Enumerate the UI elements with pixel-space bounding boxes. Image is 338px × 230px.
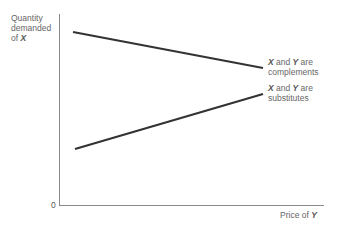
complements-label-line2: complements [268,67,319,77]
substitutes-label: X and Y are substitutes [268,83,313,103]
and-text: and [274,83,293,93]
y-axis-variable: X [20,33,26,43]
complements-label-line1: X and Y are [268,57,319,67]
origin-label: 0 [51,200,56,210]
and-text: and [274,57,293,67]
complements-label: X and Y are complements [268,57,319,77]
substitutes-label-line1: X and Y are [268,83,313,93]
are-text: are [298,83,313,93]
x-axis-label-prefix: Price of [280,210,311,220]
x-axis-variable: Y [311,210,317,220]
are-text: are [298,57,313,67]
complements-line [73,32,263,68]
substitutes-line [75,94,263,149]
x-axis-label: Price of Y [280,210,317,220]
y-axis-label: Quantity demanded of X [11,13,51,43]
y-axis-label-line2: demanded [11,23,51,33]
y-axis-label-line3: of X [11,33,51,43]
substitutes-label-line2: substitutes [268,93,313,103]
y-axis-label-line1: Quantity [11,13,51,23]
